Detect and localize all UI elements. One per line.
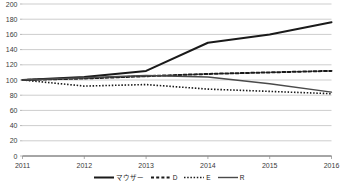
y-tick-label: 20 <box>0 137 18 144</box>
x-tick-label: 2014 <box>188 162 228 169</box>
gridlines <box>23 4 332 156</box>
legend-item-4[interactable]: R <box>218 174 245 181</box>
x-tick-label: 2013 <box>126 162 166 169</box>
x-tick-label: 2016 <box>312 162 344 169</box>
y-tick-label: 200 <box>0 1 18 8</box>
x-tick-label: 2012 <box>64 162 104 169</box>
y-tick-label: 180 <box>0 16 18 23</box>
y-tick-label: 0 <box>0 153 18 160</box>
legend-swatch-solid <box>94 174 114 181</box>
y-tick-label: 140 <box>0 46 18 53</box>
series-line-4 <box>23 75 332 92</box>
x-axis <box>23 156 332 159</box>
y-tick-label: 40 <box>0 122 18 129</box>
x-tick-label: 2011 <box>3 162 43 169</box>
legend-label: マウザー <box>116 174 144 181</box>
legend-swatch-dashed <box>151 174 171 181</box>
legend-label: R <box>240 174 245 181</box>
y-tick-label: 80 <box>0 92 18 99</box>
legend-item-1[interactable]: マウザー <box>94 174 144 181</box>
y-tick-label: 160 <box>0 31 18 38</box>
legend-item-3[interactable]: E <box>184 174 210 181</box>
x-tick-label: 2015 <box>250 162 290 169</box>
legend-swatch-dotted <box>184 174 204 181</box>
series-line-3 <box>23 80 332 94</box>
legend-label: D <box>173 174 178 181</box>
y-tick-label: 100 <box>0 77 18 84</box>
chart-legend: マウザーDER <box>0 171 338 184</box>
y-tick-label: 120 <box>0 61 18 68</box>
legend-item-2[interactable]: D <box>151 174 178 181</box>
legend-swatch-solid <box>218 174 238 181</box>
y-tick-label: 60 <box>0 107 18 114</box>
legend-label: E <box>206 174 210 181</box>
